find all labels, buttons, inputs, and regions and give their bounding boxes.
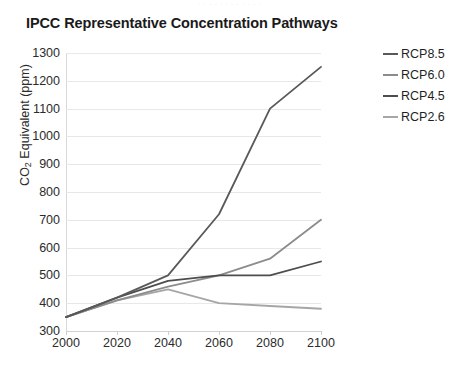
legend-item-rcp6-0[interactable]: RCP6.0 [383, 65, 459, 85]
legend-item-label: RCP8.5 [401, 47, 445, 61]
y-axis-tick-label: 1100 [14, 102, 60, 116]
chart-container: · · · · · · · · · · · · IPCC Representat… [0, 0, 459, 384]
legend-item-rcp2-6[interactable]: RCP2.6 [383, 107, 459, 127]
chart-title: IPCC Representative Concentration Pathwa… [26, 15, 338, 31]
x-axis-tick-label: 2080 [256, 336, 284, 350]
y-axis-tick-label: 500 [14, 268, 60, 282]
x-axis-tick-label: 2040 [154, 336, 182, 350]
legend-line-swatch-icon [383, 74, 398, 76]
y-axis-tick-label: 1200 [14, 74, 60, 88]
legend-line-swatch-icon [383, 53, 398, 55]
series-line-rcp8-5 [66, 67, 321, 317]
chart-legend: RCP8.5RCP6.0RCP4.5RCP2.6 [383, 44, 459, 128]
y-axis-tick-label: 1300 [14, 46, 60, 60]
legend-item-label: RCP2.6 [401, 110, 445, 124]
x-axis-tick-label: 2060 [205, 336, 233, 350]
x-axis-tick-label: 2000 [52, 336, 80, 350]
x-axis-tick-label: 2100 [307, 336, 335, 350]
y-axis-tick-labels: 3004005006007008009001000110012001300 [8, 53, 60, 331]
x-axis-tick-mark [168, 331, 169, 335]
legend-item-rcp8-5[interactable]: RCP8.5 [383, 44, 459, 64]
legend-line-swatch-icon [383, 116, 398, 118]
y-axis-tick-label: 400 [14, 296, 60, 310]
y-axis-tick-label: 1000 [14, 129, 60, 143]
y-axis-tick-label: 600 [14, 241, 60, 255]
legend-item-label: RCP4.5 [401, 89, 445, 103]
legend-item-rcp4-5[interactable]: RCP4.5 [383, 86, 459, 106]
x-axis-tick-mark [219, 331, 220, 335]
x-axis-tick-mark [117, 331, 118, 335]
legend-line-swatch-icon [383, 95, 398, 97]
series-lines [66, 53, 321, 331]
cropped-header-text: · · · · · · · · · · · · [0, 0, 459, 9]
x-axis-tick-mark [270, 331, 271, 335]
legend-item-label: RCP6.0 [401, 68, 445, 82]
y-axis-tick-label: 800 [14, 185, 60, 199]
y-axis-tick-label: 900 [14, 157, 60, 171]
series-line-rcp4-5 [66, 262, 321, 318]
x-axis-tick-label: 2020 [103, 336, 131, 350]
x-axis-tick-mark [66, 331, 67, 335]
plot-area [66, 53, 321, 331]
x-axis-tick-labels: 200020202040206020802100 [66, 336, 321, 354]
y-axis-tick-label: 700 [14, 213, 60, 227]
x-axis-tick-mark [321, 331, 322, 335]
